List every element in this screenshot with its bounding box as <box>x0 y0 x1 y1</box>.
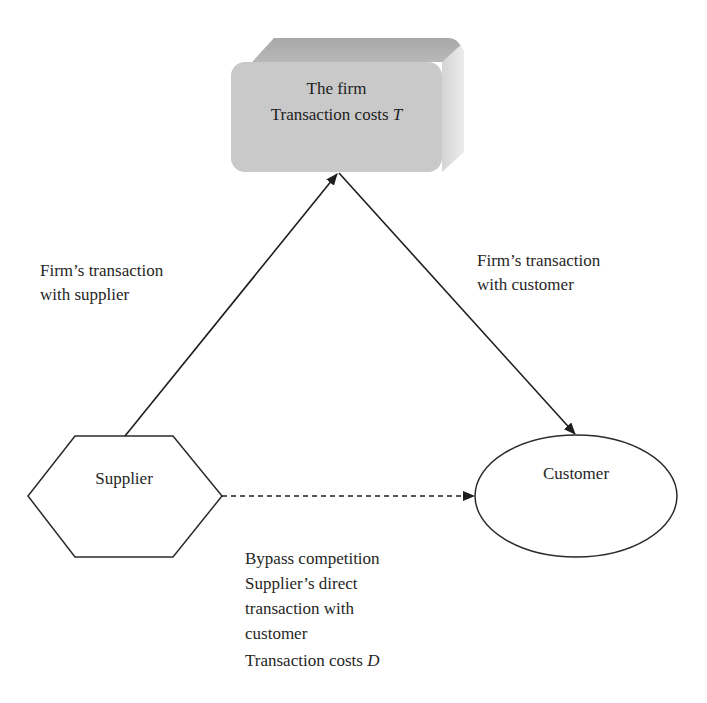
bypass-label-line-1: Bypass competition <box>245 546 380 571</box>
supplier-label: Supplier <box>75 467 173 491</box>
customer-label: Customer <box>476 462 676 486</box>
supplier-transaction-label: Firm’s transaction with supplier <box>40 259 163 307</box>
firm-box-side-face <box>442 42 464 172</box>
firm-cost-symbol: T <box>393 105 402 124</box>
firm-title: The firm <box>231 76 442 102</box>
supplier-hexagon <box>28 436 222 557</box>
bypass-label: Bypass competition Supplier’s direct tra… <box>245 546 380 673</box>
bypass-label-line-2: Supplier’s direct <box>245 571 380 596</box>
customer-ellipse <box>475 435 677 557</box>
customer-transaction-label: Firm’s transaction with customer <box>477 249 600 297</box>
customer-transaction-label-line-1: Firm’s transaction <box>477 249 600 273</box>
bypass-label-line-4: customer <box>245 621 380 646</box>
firm-box-top-face <box>252 38 462 62</box>
bypass-cost-symbol: D <box>367 651 379 670</box>
bypass-cost-prefix: Transaction costs <box>245 651 367 670</box>
supplier-transaction-label-line-2: with supplier <box>40 283 163 307</box>
bypass-cost-label: Transaction costs D <box>245 648 380 673</box>
supplier-transaction-label-line-1: Firm’s transaction <box>40 259 163 283</box>
firm-cost-prefix: Transaction costs <box>271 105 393 124</box>
firm-cost-label: Transaction costs T <box>231 102 442 128</box>
bypass-label-line-3: transaction with <box>245 596 380 621</box>
customer-transaction-label-line-2: with customer <box>477 273 600 297</box>
firm-label: The firm Transaction costs T <box>231 76 442 128</box>
firm-to-customer-arrow <box>339 173 575 434</box>
transaction-cost-diagram: The firm Transaction costs T Supplier Cu… <box>0 0 707 703</box>
